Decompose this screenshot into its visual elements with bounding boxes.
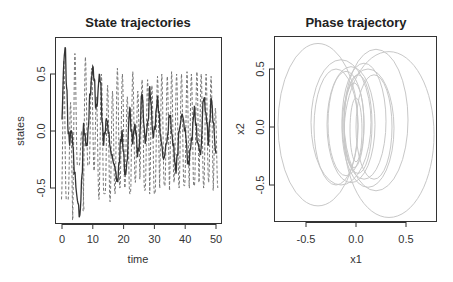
phase-loop (356, 75, 392, 179)
left-x-axis: 01020304050 (59, 224, 222, 245)
left-plot-lines (62, 47, 218, 220)
x-tick-label: 50 (210, 233, 222, 245)
x-tick-label: 0.0 (348, 233, 363, 245)
x-tick-label: 0.5 (398, 233, 413, 245)
y-tick-label: 0.0 (35, 123, 47, 138)
y-tick-label: 0.5 (35, 66, 47, 81)
y-tick-label: 0.0 (254, 119, 266, 134)
y-tick-label: -0.5 (254, 176, 266, 195)
x-tick-label: 20 (117, 233, 129, 245)
right-plot-lines (278, 43, 434, 217)
x1-solid-line (62, 47, 216, 217)
right-y-axis-label: x2 (234, 123, 246, 135)
x-tick-label: 30 (148, 233, 160, 245)
x-tick-label: 0 (59, 233, 65, 245)
right-plot-box (275, 37, 437, 222)
left-chart-title: State trajectories (85, 15, 191, 30)
left-y-axis: -0.50.00.5 (35, 66, 55, 197)
x-tick-label: 10 (87, 233, 99, 245)
right-x-axis: -0.50.00.5 (297, 222, 414, 245)
left-x-axis-label: time (128, 253, 149, 265)
right-x-axis-label: x1 (350, 253, 362, 265)
phase-loop (344, 83, 364, 168)
y-tick-label: 0.5 (254, 61, 266, 76)
state-trajectories-panel: State trajectories 01020304050 -0.50.00.… (14, 15, 222, 265)
x-tick-label: 40 (179, 233, 191, 245)
figure: State trajectories 01020304050 -0.50.00.… (0, 0, 453, 282)
x-tick-label: -0.5 (297, 233, 316, 245)
right-chart-title: Phase trajectory (305, 15, 407, 30)
left-y-axis-label: states (14, 116, 26, 146)
right-y-axis: -0.50.00.5 (254, 61, 274, 194)
phase-trajectory-panel: Phase trajectory -0.50.00.5 -0.50.00.5 x… (234, 15, 437, 265)
y-tick-label: -0.5 (35, 179, 47, 198)
